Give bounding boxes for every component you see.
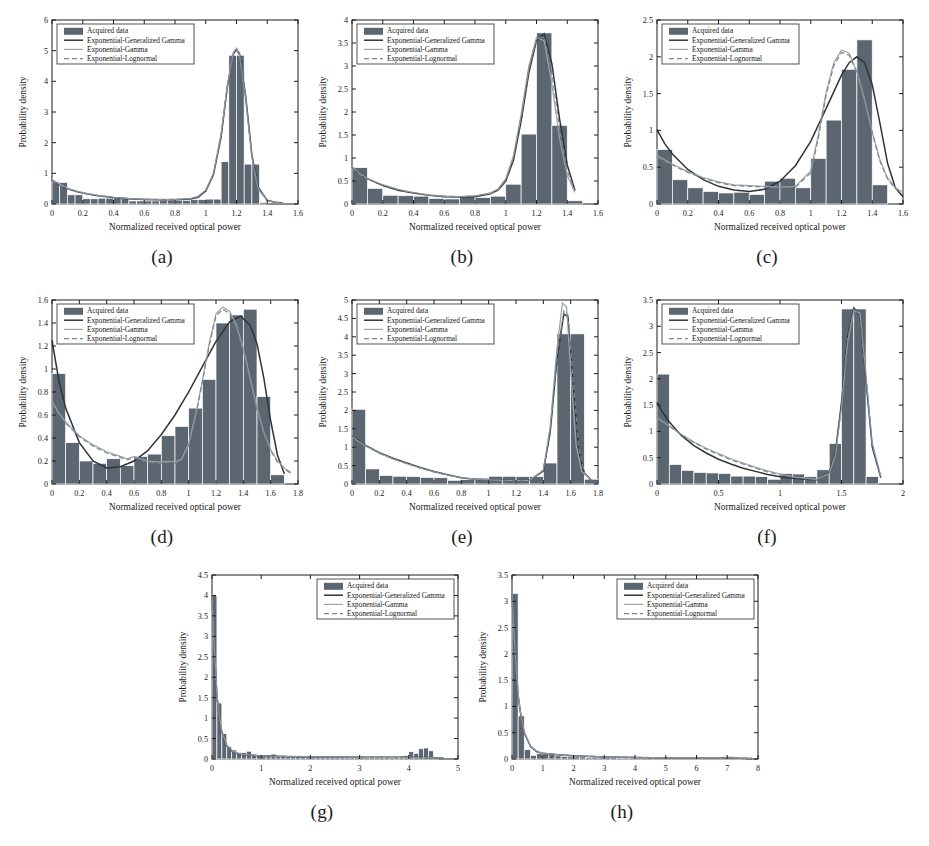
histogram-bar xyxy=(755,477,767,484)
legend-label: Exponential-Generalized Gamma xyxy=(692,36,791,45)
legend-label: Acquired data xyxy=(692,306,734,315)
bar-series xyxy=(212,595,438,759)
panel-g: 01234500.511.522.533.544.5Normalized rec… xyxy=(172,563,472,839)
y-tick-label: 3 xyxy=(649,322,653,331)
y-tick-label: 0 xyxy=(204,755,208,764)
x-tick-label: 0 xyxy=(350,489,354,498)
histogram-bar xyxy=(366,469,380,484)
panel-label-d: (d) xyxy=(12,526,312,548)
histogram-bar xyxy=(175,200,183,204)
histogram-bar xyxy=(393,476,407,484)
y-tick-label: 0.5 xyxy=(643,163,653,172)
legend-label: Exponential-Gamma xyxy=(647,600,709,609)
y-tick-label: 0 xyxy=(44,480,48,489)
legend-swatch-acquired-data xyxy=(669,28,688,35)
x-tick-label: 0.4 xyxy=(713,209,723,218)
x-tick-label: 1.6 xyxy=(293,209,303,218)
x-tick-label: 1.2 xyxy=(511,489,521,498)
curve-exponential-lognormal xyxy=(212,596,443,758)
histogram-bar xyxy=(352,409,366,484)
legend-label: Exponential-Gamma xyxy=(692,45,754,54)
legend-label: Exponential-Generalized Gamma xyxy=(87,36,186,45)
legend-label: Exponential-Lognormal xyxy=(87,334,157,343)
histogram-bar xyxy=(98,198,106,204)
y-tick-label: 0 xyxy=(44,200,48,209)
legend-label: Exponential-Lognormal xyxy=(347,609,417,618)
histogram-bar xyxy=(129,201,137,204)
panel-label-g: (g) xyxy=(172,801,472,823)
y-tick-label: 2.5 xyxy=(338,388,348,397)
x-tick-label: 0.5 xyxy=(713,489,723,498)
y-tick-label: 2 xyxy=(344,406,348,415)
y-tick-label: 1.5 xyxy=(198,694,208,703)
histogram-bar xyxy=(420,477,434,484)
y-axis-label: Probability density xyxy=(478,631,488,702)
x-tick-label: 1.2 xyxy=(231,209,241,218)
y-tick-label: 5 xyxy=(344,296,348,305)
histogram-bar xyxy=(107,459,121,484)
histogram-bar xyxy=(555,756,561,759)
histogram-bar xyxy=(407,477,421,484)
x-tick-label: 1 xyxy=(187,489,191,498)
y-tick-label: 1 xyxy=(344,443,348,452)
x-tick-label: 0.2 xyxy=(683,209,693,218)
histogram-bar xyxy=(537,754,543,759)
histogram-bar xyxy=(506,184,521,204)
x-tick-label: 1 xyxy=(204,209,208,218)
legend-label: Exponential-Lognormal xyxy=(647,609,717,618)
y-tick-label: 4.5 xyxy=(198,571,208,580)
histogram-bar xyxy=(202,379,216,484)
plot-area-g: 01234500.511.522.533.544.5Normalized rec… xyxy=(172,563,472,803)
y-axis-label: Probability density xyxy=(623,76,633,147)
histogram-bar xyxy=(206,199,214,204)
legend-label: Exponential-Lognormal xyxy=(692,334,762,343)
bar-series xyxy=(52,55,267,204)
panel-label-b: (b) xyxy=(312,246,612,268)
x-axis-label: Normalized received optical power xyxy=(269,777,402,787)
x-tick-label: 1.4 xyxy=(238,489,248,498)
histogram-bar xyxy=(557,334,571,484)
histogram-bar xyxy=(398,196,413,204)
x-tick-label: 1.8 xyxy=(293,489,303,498)
legend-swatch-acquired-data xyxy=(364,308,383,315)
histogram-bar xyxy=(703,191,718,204)
x-tick-label: 3 xyxy=(602,764,606,773)
histogram-bar xyxy=(75,195,83,204)
x-tick-label: 0.8 xyxy=(456,489,466,498)
x-tick-label: 0.6 xyxy=(129,489,139,498)
x-tick-label: 0.6 xyxy=(744,209,754,218)
histogram-bar xyxy=(221,162,229,204)
y-tick-label: 3 xyxy=(344,370,348,379)
x-axis-label: Normalized received optical power xyxy=(109,502,242,512)
y-tick-label: 0.2 xyxy=(38,457,48,466)
x-tick-label: 0 xyxy=(350,209,354,218)
y-tick-label: 4 xyxy=(344,16,348,25)
y-tick-label: 2.5 xyxy=(198,653,208,662)
histogram-bar xyxy=(543,463,557,484)
y-tick-label: 1 xyxy=(344,154,348,163)
y-tick-label: 2.5 xyxy=(498,624,508,633)
x-tick-label: 0.4 xyxy=(108,209,118,218)
y-tick-label: 1.5 xyxy=(498,676,508,685)
chart-svg-g: 01234500.511.522.533.544.5Normalized rec… xyxy=(172,563,472,803)
histogram-bar xyxy=(67,195,75,204)
histogram-bar xyxy=(592,757,598,759)
y-tick-label: 2 xyxy=(649,53,653,62)
legend: Acquired dataExponential-Generalized Gam… xyxy=(57,24,194,64)
y-tick-label: 2 xyxy=(204,673,208,682)
chart-svg-f: 00.511.5200.511.522.533.5Normalized rece… xyxy=(617,288,917,528)
legend-swatch-acquired-data xyxy=(364,28,383,35)
legend-label: Exponential-Generalized Gamma xyxy=(387,36,486,45)
y-axis-label: Probability density xyxy=(178,631,188,702)
x-tick-label: 0 xyxy=(50,489,54,498)
y-tick-label: 3.5 xyxy=(338,351,348,360)
x-axis-label: Normalized received optical power xyxy=(409,502,542,512)
y-tick-label: 0 xyxy=(344,200,348,209)
figure-grid: 00.20.40.60.811.21.41.60123456Normalized… xyxy=(0,0,929,846)
plot-area-a: 00.20.40.60.811.21.41.60123456Normalized… xyxy=(12,8,312,248)
histogram-bar xyxy=(530,755,536,759)
legend-label: Acquired data xyxy=(87,306,129,315)
y-tick-label: 2 xyxy=(504,650,508,659)
legend-label: Acquired data xyxy=(647,581,689,590)
legend: Acquired dataExponential-Generalized Gam… xyxy=(662,304,799,344)
